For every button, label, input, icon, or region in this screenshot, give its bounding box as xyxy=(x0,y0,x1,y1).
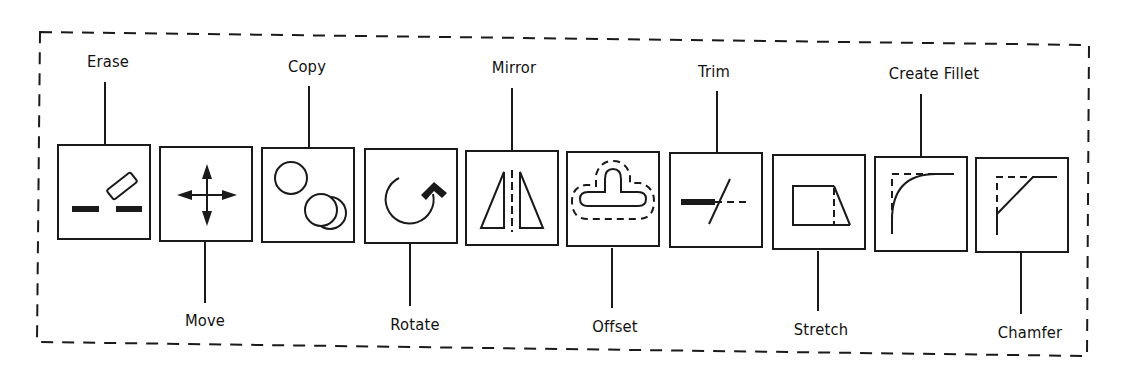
stretch-trapezoid-icon xyxy=(774,156,864,248)
rotate-arrow-icon xyxy=(366,150,456,242)
label-rotate: Rotate xyxy=(390,316,439,334)
move-arrows-icon xyxy=(161,148,251,240)
offset-shape-icon xyxy=(568,153,658,245)
leader-line-trim xyxy=(716,91,718,152)
label-chamfer: Chamfer xyxy=(998,324,1063,342)
label-move: Move xyxy=(185,312,225,330)
fillet-corner-icon xyxy=(876,158,966,250)
trim-button[interactable] xyxy=(669,152,763,248)
offset-button[interactable] xyxy=(566,151,660,247)
leader-line-fillet xyxy=(920,94,922,156)
move-button[interactable] xyxy=(159,146,253,242)
copy-button[interactable] xyxy=(261,147,355,243)
mirror-triangles-icon xyxy=(467,152,557,244)
trim-line-icon xyxy=(671,154,761,246)
stretch-button[interactable] xyxy=(772,154,866,250)
leader-line-offset xyxy=(611,248,613,308)
label-create-fillet: Create Fillet xyxy=(889,65,979,83)
erase-button[interactable] xyxy=(57,144,151,240)
label-mirror: Mirror xyxy=(492,59,536,77)
toolbar-diagram: Erase Move Copy xyxy=(0,0,1122,369)
label-offset: Offset xyxy=(592,318,638,336)
copy-circles-icon xyxy=(263,149,353,241)
mirror-button[interactable] xyxy=(465,150,559,246)
leader-line-copy xyxy=(308,86,310,147)
leader-line-mirror xyxy=(511,88,513,150)
leader-line-erase xyxy=(104,82,106,144)
chamfer-button[interactable] xyxy=(975,157,1069,253)
rotate-button[interactable] xyxy=(364,148,458,244)
erase-icon xyxy=(59,146,149,238)
label-trim: Trim xyxy=(698,63,730,81)
leader-line-chamfer xyxy=(1020,253,1022,314)
chamfer-corner-icon xyxy=(977,159,1067,251)
create-fillet-button[interactable] xyxy=(874,156,968,252)
label-copy: Copy xyxy=(288,58,326,76)
label-stretch: Stretch xyxy=(794,321,848,339)
leader-line-stretch xyxy=(817,251,819,311)
leader-line-move xyxy=(204,242,206,303)
label-erase: Erase xyxy=(87,53,129,71)
leader-line-rotate xyxy=(409,244,411,306)
